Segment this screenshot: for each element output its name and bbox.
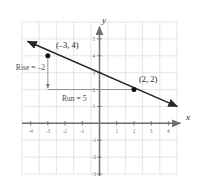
- x-tick-label: -1: [80, 128, 85, 134]
- y-tick-label: 3: [92, 70, 95, 76]
- y-tick-label: 4: [92, 53, 95, 59]
- x-tick-label: -4: [28, 128, 33, 134]
- x-tick-label: 4: [167, 128, 170, 134]
- data-point-2: [131, 87, 136, 92]
- x-tick-label: 3: [150, 128, 153, 134]
- y-tick-label: -1: [92, 137, 97, 143]
- y-tick-label: 2: [92, 87, 95, 93]
- x-axis-label: x: [185, 112, 190, 122]
- x-tick-label: 1: [115, 128, 118, 134]
- point-label-2: (2, 2): [139, 74, 158, 84]
- x-tick-label: -2: [63, 128, 68, 134]
- coordinate-plane-figure: y x -4 -3 -2 -1 1 2 3 4 5 4 3 2 1 -1 -2 …: [0, 0, 199, 193]
- y-tick-label: 5: [92, 36, 95, 42]
- point-label-1: (–3, 4): [56, 40, 79, 50]
- y-tick-label: -3: [92, 171, 97, 177]
- x-tick-label: -3: [46, 128, 51, 134]
- y-tick-label: 1: [92, 103, 95, 109]
- data-point-1: [45, 53, 50, 58]
- graph-svg: y x -4 -3 -2 -1 1 2 3 4 5 4 3 2 1 -1 -2 …: [0, 0, 199, 193]
- y-axis-label: y: [101, 15, 106, 25]
- y-tick-label: -2: [92, 154, 97, 160]
- x-tick-label: 2: [133, 128, 136, 134]
- rise-annotation-label: Rise = –2: [16, 63, 45, 72]
- run-annotation-label: Run = 5: [62, 94, 87, 103]
